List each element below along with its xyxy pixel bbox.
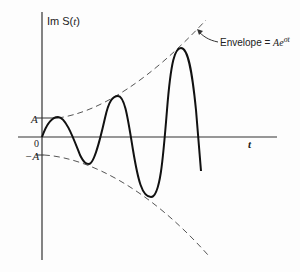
envelope-annotation: Envelope = Aeσt	[220, 36, 290, 48]
y-axis-label: Im S(t)	[47, 16, 80, 27]
x-axis-label: t	[248, 139, 251, 150]
tick-label-zero: 0	[34, 139, 39, 149]
figure: Im S(t) A 0 −A t Envelope = Aeσt	[0, 0, 300, 272]
tick-label-A: A	[31, 114, 38, 125]
tick-label-negA: −A	[25, 151, 39, 162]
signal-curve	[42, 48, 201, 197]
lower-envelope	[44, 155, 208, 255]
upper-envelope	[58, 20, 206, 118]
